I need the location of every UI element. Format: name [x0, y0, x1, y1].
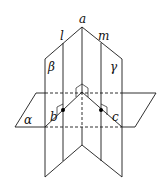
label-beta: β — [47, 60, 55, 74]
label-m: m — [98, 29, 109, 43]
plane-beta — [45, 27, 82, 177]
label-gamma: γ — [110, 60, 118, 74]
label-l: l — [60, 29, 64, 43]
plane-alpha — [15, 93, 156, 127]
label-c: c — [112, 110, 119, 124]
point-c — [99, 108, 103, 112]
point-b — [61, 108, 65, 112]
label-b: b — [50, 110, 58, 124]
geometry-diagram: a l m β γ α b c — [0, 0, 166, 193]
plane-gamma — [82, 27, 122, 177]
label-alpha: α — [24, 113, 32, 127]
label-a: a — [79, 12, 86, 26]
